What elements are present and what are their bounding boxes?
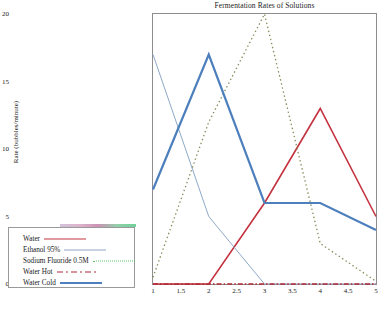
y-tick-label: 15 (0, 78, 9, 86)
x-tick-label: 2.5 (225, 287, 249, 295)
legend-item[interactable]: Water Hot (23, 266, 99, 277)
legend-item-label: Water Hot (23, 268, 53, 276)
legend-line-sample (64, 246, 106, 254)
legend-line-sample (60, 279, 102, 287)
series-line (153, 14, 376, 281)
chart-legend: WaterEthanol 95%Sodium Fluoride 0.5MWate… (8, 227, 135, 288)
series-line (153, 55, 376, 285)
legend-line-sample (57, 268, 99, 276)
chart-title: Fermentation Rates of Solutions (152, 1, 377, 10)
y-axis-label: Rate (bubbles/minute) (12, 72, 20, 192)
y-tick-label: 10 (0, 145, 9, 153)
legend-line-sample (93, 257, 135, 265)
legend-item-label: Sodium Fluoride 0.5M (23, 257, 89, 265)
legend-item-label: Ethanol 95% (23, 246, 60, 254)
x-tick-label: 2 (197, 287, 221, 295)
x-tick-label: 1 (141, 287, 165, 295)
x-tick-label: 3 (253, 287, 277, 295)
legend-line-sample (44, 235, 86, 243)
legend-item[interactable]: Water Cold (23, 277, 102, 288)
legend-item-label: Water (23, 235, 40, 243)
chart-canvas: Fermentation Rates of Solutions Rate (bu… (0, 0, 391, 315)
series-lines (153, 14, 376, 284)
x-tick-label: 4.5 (336, 287, 360, 295)
y-tick-label: 5 (0, 213, 9, 221)
legend-item[interactable]: Sodium Fluoride 0.5M (23, 255, 135, 266)
series-line (153, 109, 376, 285)
x-tick-label: 3.5 (280, 287, 304, 295)
series-line (153, 55, 376, 231)
legend-item[interactable]: Ethanol 95% (23, 244, 106, 255)
legend-item-label: Water Cold (23, 279, 56, 287)
x-tick-label: 1.5 (169, 287, 193, 295)
legend-item[interactable]: Water (23, 233, 86, 244)
x-tick-label: 5 (364, 287, 388, 295)
y-tick-label: 20 (0, 10, 9, 18)
plot-area (152, 13, 377, 285)
x-tick-label: 4 (308, 287, 332, 295)
